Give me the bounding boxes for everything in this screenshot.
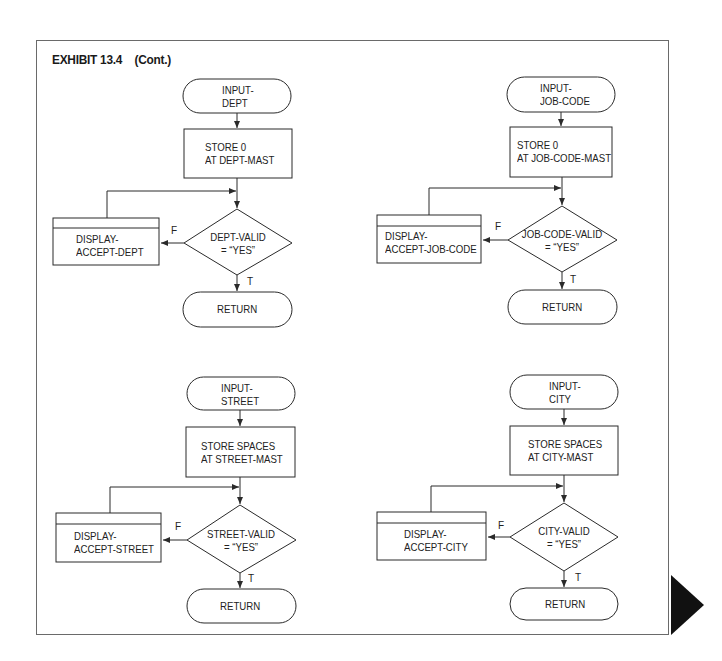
decision-label: DEPT-VALID = “YES”: [203, 231, 273, 256]
true-branch-label: T: [575, 572, 581, 583]
return-terminal-label: RETURN: [217, 303, 257, 316]
false-branch-label: F: [495, 221, 501, 232]
start-terminal-label: INPUT- CITY: [549, 380, 581, 405]
flowchart-job-code: [377, 77, 617, 324]
continue-triangle-icon: [671, 575, 704, 635]
predefined-process-label: DISPLAY- ACCEPT-DEPT: [76, 233, 144, 258]
true-branch-label: T: [247, 276, 253, 287]
decision-label: JOB-CODE-VALID = “YES”: [519, 228, 605, 253]
start-terminal-label: INPUT- STREET: [221, 382, 259, 407]
process-label: STORE SPACES AT CITY-MAST: [528, 438, 602, 463]
return-terminal-label: RETURN: [545, 598, 585, 611]
predefined-process-label: DISPLAY- ACCEPT-JOB-CODE: [385, 230, 477, 255]
return-terminal-label: RETURN: [220, 600, 260, 613]
predefined-process-label: DISPLAY- ACCEPT-CITY: [404, 528, 468, 553]
decision-label: STREET-VALID = “YES”: [204, 528, 278, 553]
process-label: STORE 0 AT DEPT-MAST: [205, 141, 274, 166]
flowchart-city: [377, 375, 618, 620]
true-branch-label: T: [570, 274, 576, 285]
true-branch-label: T: [248, 573, 254, 584]
flowchart-diagram: [0, 0, 722, 661]
flowchart-dept: [53, 79, 292, 327]
return-terminal-label: RETURN: [542, 301, 582, 314]
start-terminal-label: INPUT- JOB-CODE: [540, 82, 590, 107]
start-terminal-label: INPUT- DEPT: [222, 84, 254, 109]
false-branch-label: F: [175, 521, 181, 532]
false-branch-label: F: [171, 225, 177, 236]
decision-label: CITY-VALID = “YES”: [529, 525, 599, 550]
process-label: STORE 0 AT JOB-CODE-MAST: [517, 139, 611, 164]
flowchart-street: [56, 377, 296, 623]
false-branch-label: F: [498, 520, 504, 531]
process-label: STORE SPACES AT STREET-MAST: [201, 440, 283, 465]
predefined-process-label: DISPLAY- ACCEPT-STREET: [74, 530, 154, 555]
